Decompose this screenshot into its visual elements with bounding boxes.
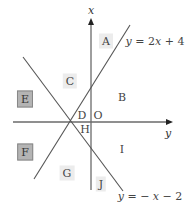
region-label-f: F [17, 144, 33, 161]
origin-label: O [93, 110, 102, 121]
region-label-a: A [99, 34, 113, 49]
vertical-axis-label: x [88, 5, 94, 16]
coordinate-diagram: x y y = 2x + 4 y = − x − 2 A B C D E F G… [0, 0, 186, 213]
region-label-g: G [60, 166, 75, 181]
horizontal-axis-arrow-icon [166, 119, 173, 125]
region-label-h: H [80, 124, 90, 135]
region-label-i: I [120, 144, 124, 155]
region-label-j: J [96, 177, 106, 192]
region-label-b: B [118, 92, 126, 103]
region-label-d: D [78, 110, 87, 121]
eq2-end: − 2 [159, 190, 182, 203]
eq2-mid: = − [124, 190, 153, 203]
horizontal-axis-label: y [165, 128, 171, 139]
region-label-e: E [17, 91, 33, 108]
line-y-2x-plus-4 [34, 25, 130, 179]
region-label-c: C [63, 74, 77, 89]
eq1-mid: = 2 [132, 35, 155, 48]
equation-line-2: y = − x − 2 [118, 191, 183, 202]
eq1-end: + 4 [161, 35, 184, 48]
vertical-axis-arrow-icon [88, 18, 94, 25]
equation-line-1: y = 2x + 4 [126, 36, 185, 47]
